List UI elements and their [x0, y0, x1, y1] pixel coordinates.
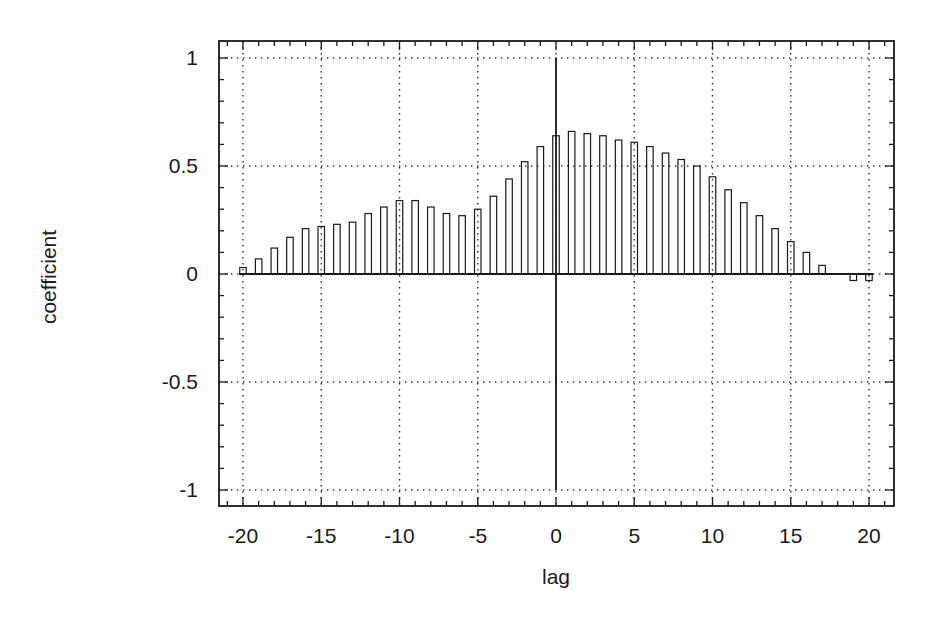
bar-lag--18 — [271, 248, 278, 274]
bar-lag--2 — [521, 162, 528, 274]
bar-lag-13 — [756, 216, 763, 274]
bar-lag-17 — [819, 265, 826, 274]
y-tick-label: -1 — [179, 478, 198, 501]
bar-lag-3 — [600, 136, 607, 274]
bar-lag-7 — [662, 153, 669, 274]
bar-lag-2 — [584, 134, 591, 274]
bar-lag--11 — [381, 207, 388, 274]
bar-lag-12 — [741, 203, 748, 274]
bar-lag-11 — [725, 190, 732, 274]
x-tick-label: 10 — [701, 524, 724, 547]
bar-lag--19 — [255, 259, 262, 274]
bar-lag--9 — [412, 201, 419, 274]
y-tick-label: 0 — [186, 262, 198, 285]
bar-lag--17 — [287, 237, 294, 274]
bar-lag--3 — [506, 179, 513, 274]
bar-lag-9 — [694, 166, 701, 274]
bar-lag-8 — [678, 160, 685, 274]
bar-lag-14 — [772, 229, 779, 274]
bar-lag--13 — [349, 222, 356, 274]
y-tick-label: 0.5 — [169, 154, 198, 177]
bar-lag--14 — [334, 224, 341, 274]
x-tick-label: -10 — [384, 524, 414, 547]
x-tick-label: 20 — [857, 524, 880, 547]
y-tick-label: 1 — [186, 46, 198, 69]
x-tick-label: -20 — [228, 524, 258, 547]
bar-lag-1 — [568, 131, 575, 274]
x-tick-label: -5 — [468, 524, 487, 547]
bar-lag--4 — [490, 196, 497, 274]
y-axis-label: coefficient — [37, 230, 61, 324]
x-tick-label: 15 — [779, 524, 802, 547]
bar-lag-16 — [803, 252, 810, 274]
bar-lag--16 — [302, 229, 309, 274]
bar-lag--10 — [396, 201, 403, 274]
x-axis-label: lag — [542, 565, 570, 589]
x-tick-label: -15 — [306, 524, 336, 547]
chart-plot-area: -20-15-10-505101520-1-0.500.51 — [0, 0, 938, 624]
bar-lag--8 — [428, 207, 435, 274]
bar-lag--12 — [365, 214, 372, 274]
x-tick-label: 5 — [628, 524, 640, 547]
x-tick-label: 0 — [550, 524, 562, 547]
bar-lag--7 — [443, 214, 450, 274]
bar-lag--6 — [459, 216, 466, 274]
y-tick-label: -0.5 — [162, 370, 198, 393]
bar-lag-4 — [615, 140, 622, 274]
